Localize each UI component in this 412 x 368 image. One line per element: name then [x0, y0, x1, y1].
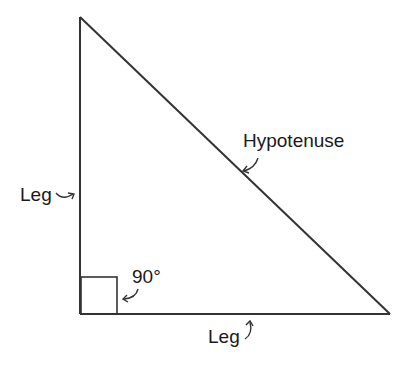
- hypotenuse-arrow-icon: [244, 158, 258, 171]
- horizontal-leg-label: Leg: [208, 326, 240, 347]
- hypotenuse-label: Hypotenuse: [243, 130, 344, 151]
- hypotenuse-line: [80, 17, 390, 314]
- right-angle-label: 90°: [132, 266, 161, 287]
- right-angle-arrow-icon: [124, 289, 138, 299]
- horizontal-leg-arrowhead-icon: [246, 321, 253, 326]
- right-angle-marker: [81, 277, 117, 314]
- right-triangle-diagram: Hypotenuse Leg 90° Leg: [0, 0, 412, 368]
- triangle: [80, 17, 390, 314]
- vertical-leg-label: Leg: [20, 184, 52, 205]
